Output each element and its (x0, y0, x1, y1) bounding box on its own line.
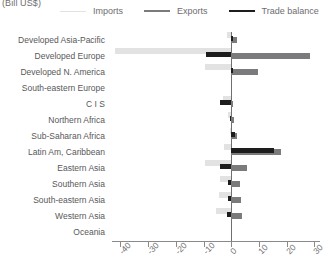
legend-item-trade-balance: Trade balance (229, 6, 319, 16)
bar-balance (206, 52, 231, 57)
bar-row (112, 64, 320, 80)
bar-balance (230, 116, 231, 121)
bar-row (112, 176, 320, 192)
category-label: Latin Am, Caribbean (0, 144, 108, 160)
category-label: Eastern Asia (0, 160, 108, 176)
legend-swatch-imports (60, 11, 86, 12)
bar-balance (220, 100, 231, 105)
bar-exports (231, 165, 246, 171)
category-axis-labels: Developed Asia-PacificDeveloped EuropeDe… (0, 32, 108, 240)
bar-balance (227, 212, 231, 217)
category-label: Oceania (0, 224, 108, 240)
category-label: C I S (0, 96, 108, 112)
bar-exports (231, 181, 239, 187)
bar-row (112, 160, 320, 176)
legend-label-trade-balance: Trade balance (262, 6, 319, 16)
bar-imports (224, 144, 231, 150)
x-axis-line (112, 241, 320, 242)
x-axis-tick-label: 0 (228, 246, 238, 256)
bar-balance (228, 196, 231, 201)
category-label: Developed Europe (0, 48, 108, 64)
bar-row (112, 192, 320, 208)
bar-exports (231, 117, 234, 123)
plot-area (112, 32, 320, 241)
bar-row (112, 128, 320, 144)
category-label: South-eastern Asia (0, 192, 108, 208)
category-label: Western Asia (0, 208, 108, 224)
bar-row (112, 96, 320, 112)
bar-exports (231, 69, 257, 75)
category-label: Developed Asia-Pacific (0, 32, 108, 48)
bar-balance (231, 68, 233, 73)
bar-row (112, 208, 320, 224)
chart-legend: Imports Exports Trade balance (60, 6, 319, 16)
bar-row (112, 32, 320, 48)
bar-exports (231, 101, 232, 107)
bar-balance (231, 36, 233, 41)
bar-balance (220, 164, 231, 169)
bar-row (112, 224, 320, 240)
category-label: South-eastern Europe (0, 80, 108, 96)
bar-row (112, 48, 320, 64)
bar-exports (231, 53, 310, 59)
legend-label-exports: Exports (177, 6, 208, 16)
bar-balance (231, 148, 274, 153)
legend-swatch-exports (144, 10, 170, 12)
bar-row (112, 112, 320, 128)
bar-row (112, 144, 320, 160)
bar-balance (228, 180, 231, 185)
category-label: Developed N. America (0, 64, 108, 80)
category-label: Southern Asia (0, 176, 108, 192)
legend-label-imports: Imports (93, 6, 123, 16)
category-label: Sub-Saharan Africa (0, 128, 108, 144)
legend-item-exports: Exports (144, 6, 229, 16)
bar-exports (231, 213, 242, 219)
bar-exports (231, 197, 241, 203)
legend-item-imports: Imports (60, 6, 144, 16)
bar-balance (231, 132, 235, 137)
trade-balance-bar-chart: (Bill US$) Imports Exports Trade balance… (0, 0, 328, 278)
bar-row (112, 80, 320, 96)
category-label: Northern Africa (0, 112, 108, 128)
chart-title: (Bill US$) (2, 0, 41, 8)
bar-imports (205, 64, 231, 70)
legend-swatch-trade-balance (229, 10, 255, 12)
